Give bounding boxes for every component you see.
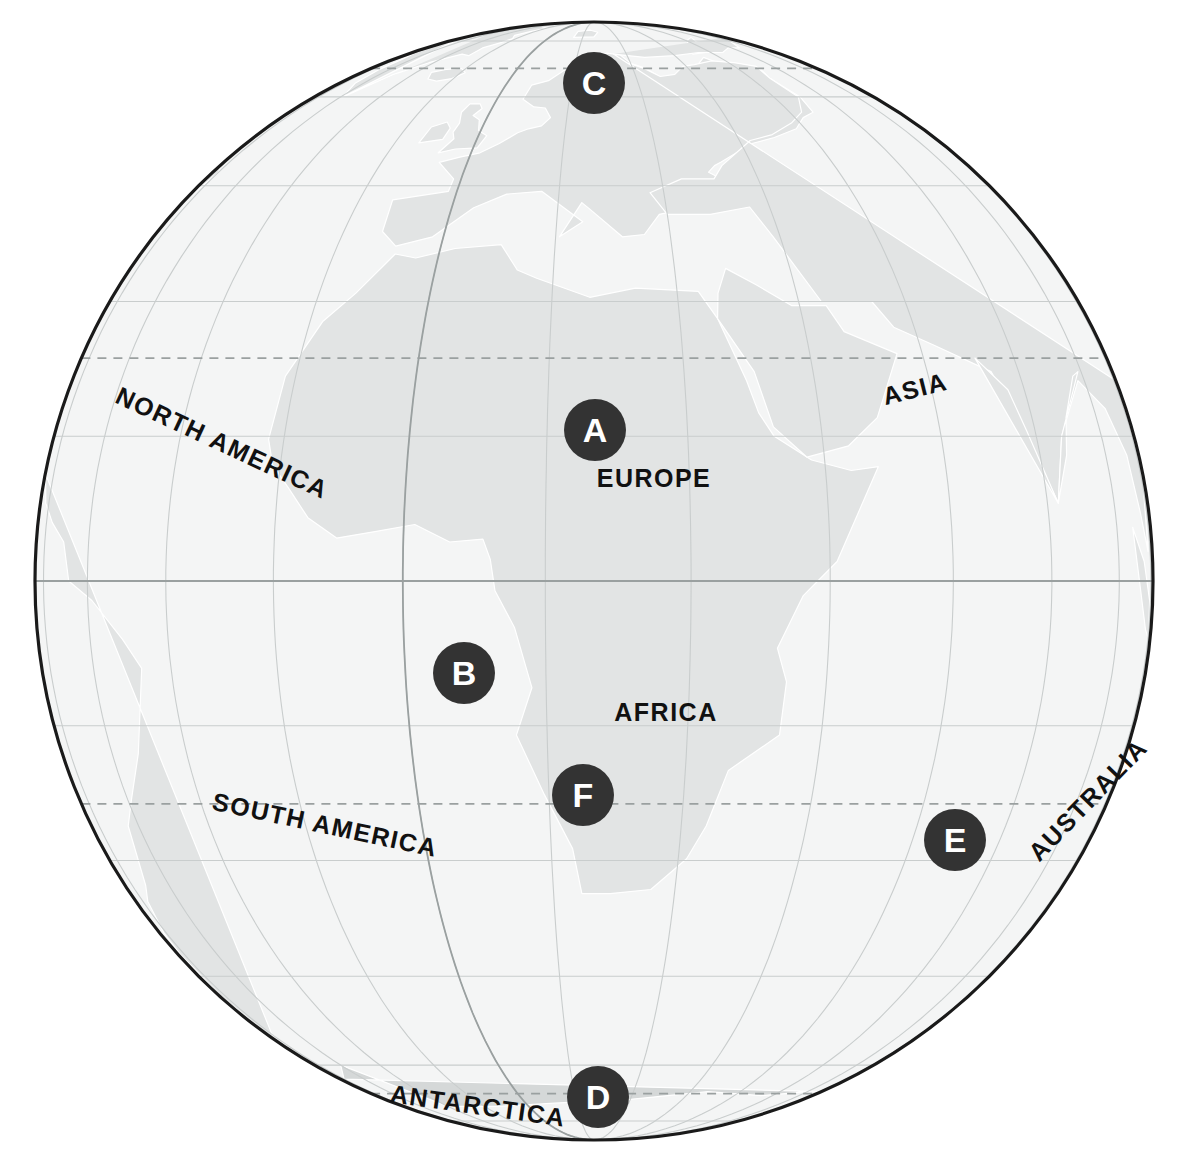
marker-b[interactable]: B	[433, 642, 495, 704]
marker-e[interactable]: E	[924, 809, 986, 871]
marker-f[interactable]: F	[552, 764, 614, 826]
marker-c[interactable]: C	[563, 52, 625, 114]
globe-svg	[0, 0, 1196, 1161]
globe-map-canvas: NORTH AMERICAASIAEUROPEAFRICASOUTH AMERI…	[0, 0, 1196, 1161]
marker-a[interactable]: A	[564, 399, 626, 461]
continent-label-europe: EUROPE	[597, 464, 712, 493]
continent-label-africa: AFRICA	[614, 698, 717, 727]
marker-d[interactable]: D	[567, 1066, 629, 1128]
